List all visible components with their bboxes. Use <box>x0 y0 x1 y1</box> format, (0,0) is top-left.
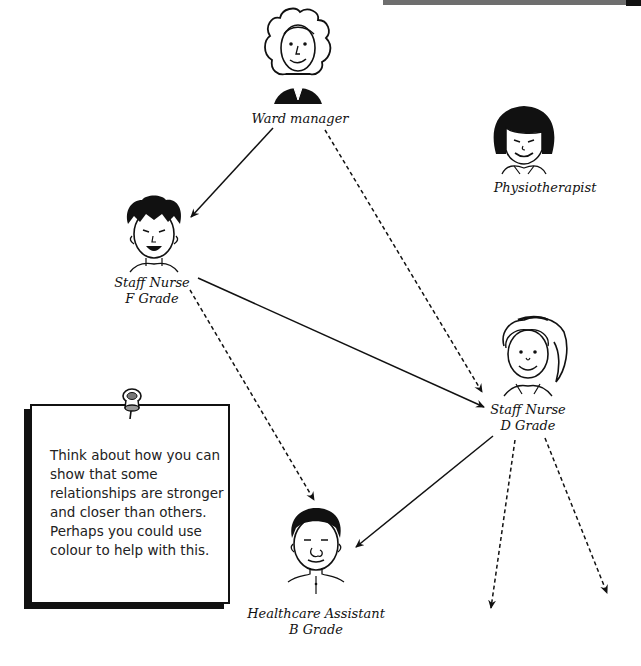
edge-staff-f-to-staff-d <box>198 278 484 407</box>
node-label-ward-manager: Ward manager <box>251 111 348 127</box>
tip-note-text: Think about how you can show that some r… <box>50 446 226 560</box>
node-label-physiotherapist: Physiotherapist <box>494 180 597 196</box>
edge-staff-d-to-hca <box>356 436 493 547</box>
thumbtack-icon <box>116 386 146 424</box>
edge-ward-to-staff-f <box>191 128 273 217</box>
person-spiky-hair-icon <box>118 194 190 278</box>
edge-staff-d-down-1 <box>491 440 515 608</box>
node-label-staff-d-line1: Staff Nurse <box>490 402 566 418</box>
person-short-hair-icon <box>280 504 352 600</box>
tip-note: Think about how you can show that some r… <box>30 404 230 604</box>
person-nurse-cap-icon <box>494 312 574 402</box>
node-label-staff-f-line2: F Grade <box>125 291 179 307</box>
person-curly-hair-icon <box>258 4 338 112</box>
person-bob-hair-icon <box>488 98 560 180</box>
node-label-hca-line1: Healthcare Assistant <box>247 606 385 622</box>
node-label-staff-f-line1: Staff Nurse <box>114 275 190 291</box>
edge-staff-d-down-2 <box>545 438 607 593</box>
edge-ward-to-staff-d <box>325 130 482 392</box>
node-label-staff-d-line2: D Grade <box>501 418 556 434</box>
node-label-hca-line2: B Grade <box>289 622 343 638</box>
